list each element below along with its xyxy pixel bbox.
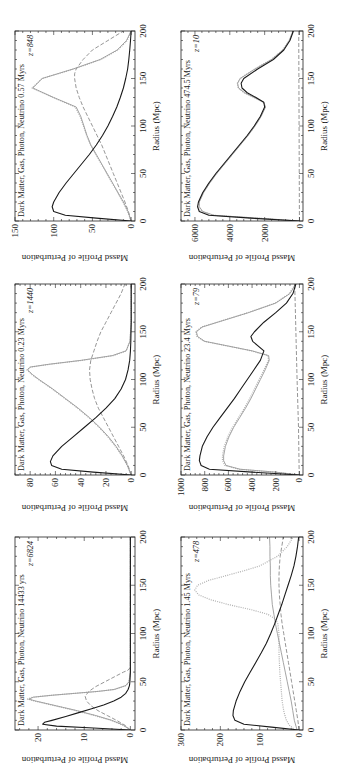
y-axis-label: Massd Profile of Perturbation xyxy=(188,755,295,765)
y-axis-label: Massd Profile of Perturbation xyxy=(21,503,128,513)
figure: 05010015020001020Radius (Mpc)Dark Matter… xyxy=(0,0,355,783)
y-axis-label: Massd Profile of Perturbation xyxy=(188,503,295,513)
y-axis-label: Massd Profile of Perturbation xyxy=(188,253,295,263)
y-axis-label: Massd Profile of Perturbation xyxy=(21,253,128,263)
y-axis-labels: Massd Profile of PerturbationMassd Profi… xyxy=(0,0,355,783)
y-axis-label: Massd Profile of Perturbation xyxy=(21,755,128,765)
